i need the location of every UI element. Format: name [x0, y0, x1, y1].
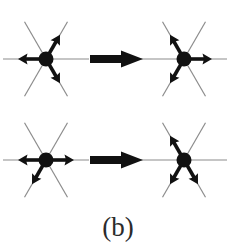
- vertex-hub-top-left: [39, 52, 54, 67]
- figure-caption: (b): [102, 212, 133, 242]
- vertex-hub-top-right: [177, 52, 192, 67]
- vertex-hub-bottom-right: [177, 153, 192, 168]
- vertex-transition-figure: (b): [0, 0, 237, 250]
- figure-container: (b): [0, 0, 237, 250]
- vertex-hub-bottom-left: [39, 153, 54, 168]
